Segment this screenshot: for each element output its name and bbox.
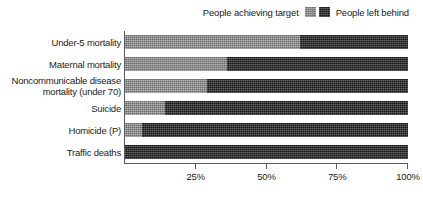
y-axis-category-label: Homicide (P): [1, 125, 121, 136]
y-axis-category-label: Maternal mortality: [1, 59, 121, 70]
plot-area: 25%50%75%100%: [125, 31, 408, 163]
legend-label-achieving-target: People achieving target: [203, 7, 299, 18]
y-axis-category-label: Suicide: [1, 103, 121, 114]
x-axis-tick-label: 75%: [328, 171, 347, 182]
bar-segment-achieving-target: [125, 57, 227, 71]
bar-segment-left-behind: [142, 123, 408, 137]
category-label-line: Homicide (P): [1, 125, 121, 136]
legend-swatch-achieving-target: [305, 7, 316, 17]
x-axis-tick: [336, 164, 337, 169]
bar-row: [125, 123, 408, 137]
legend-label-left-behind: People left behind: [336, 7, 409, 18]
bar-segment-achieving-target: [125, 101, 165, 115]
x-axis-tick: [407, 164, 408, 169]
bar-segment-achieving-target: [125, 35, 300, 49]
bar-segment-left-behind: [165, 101, 408, 115]
bar-segment-left-behind: [300, 35, 408, 49]
bar-segment-achieving-target: [125, 123, 142, 137]
x-axis-tick: [195, 164, 196, 169]
bar-row: [125, 35, 408, 49]
category-label-line: Under-5 mortality: [1, 37, 121, 48]
legend-item-achieving-target: People achieving target: [203, 7, 316, 18]
x-axis-tick-label: 25%: [186, 171, 205, 182]
x-axis-tick-label: 50%: [257, 171, 276, 182]
y-axis-category-label: Traffic deaths: [1, 147, 121, 158]
category-label-line: Suicide: [1, 103, 121, 114]
x-axis-tick: [266, 164, 267, 169]
chart-legend: People achieving target People left behi…: [0, 4, 423, 20]
bar-segment-left-behind: [227, 57, 408, 71]
category-label-line: Noncommunicable disease: [1, 75, 121, 86]
y-axis-category-label: Under-5 mortality: [1, 37, 121, 48]
y-axis-category-label: Noncommunicable diseasemortality (under …: [1, 75, 121, 97]
x-axis-tick-label: 100%: [396, 171, 420, 182]
bar-row: [125, 57, 408, 71]
bar-row: [125, 145, 408, 159]
y-axis-category-labels: Under-5 mortalityMaternal mortalityNonco…: [0, 31, 121, 163]
category-label-line: Traffic deaths: [1, 147, 121, 158]
legend-item-left-behind: People left behind: [319, 7, 409, 18]
bar-segment-left-behind: [125, 145, 408, 159]
category-label-line: Maternal mortality: [1, 59, 121, 70]
legend-swatch-left-behind: [319, 7, 330, 17]
bar-row: [125, 101, 408, 115]
bar-row: [125, 79, 408, 93]
category-label-line: mortality (under 70): [1, 86, 121, 97]
stacked-bar-chart: People achieving target People left behi…: [0, 0, 423, 198]
bar-segment-left-behind: [207, 79, 408, 93]
bar-segment-achieving-target: [125, 79, 207, 93]
